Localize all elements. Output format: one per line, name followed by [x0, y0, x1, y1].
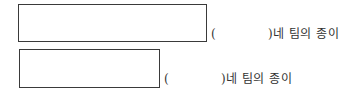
open-paren-2: (	[164, 72, 169, 86]
answer-box-2[interactable]	[19, 49, 160, 88]
label-suffix-1: )네 팀의 종이	[268, 27, 339, 41]
label-suffix-2: )네 팀의 종이	[221, 72, 292, 86]
open-paren-1: (	[211, 27, 216, 41]
answer-box-1[interactable]	[18, 4, 207, 42]
